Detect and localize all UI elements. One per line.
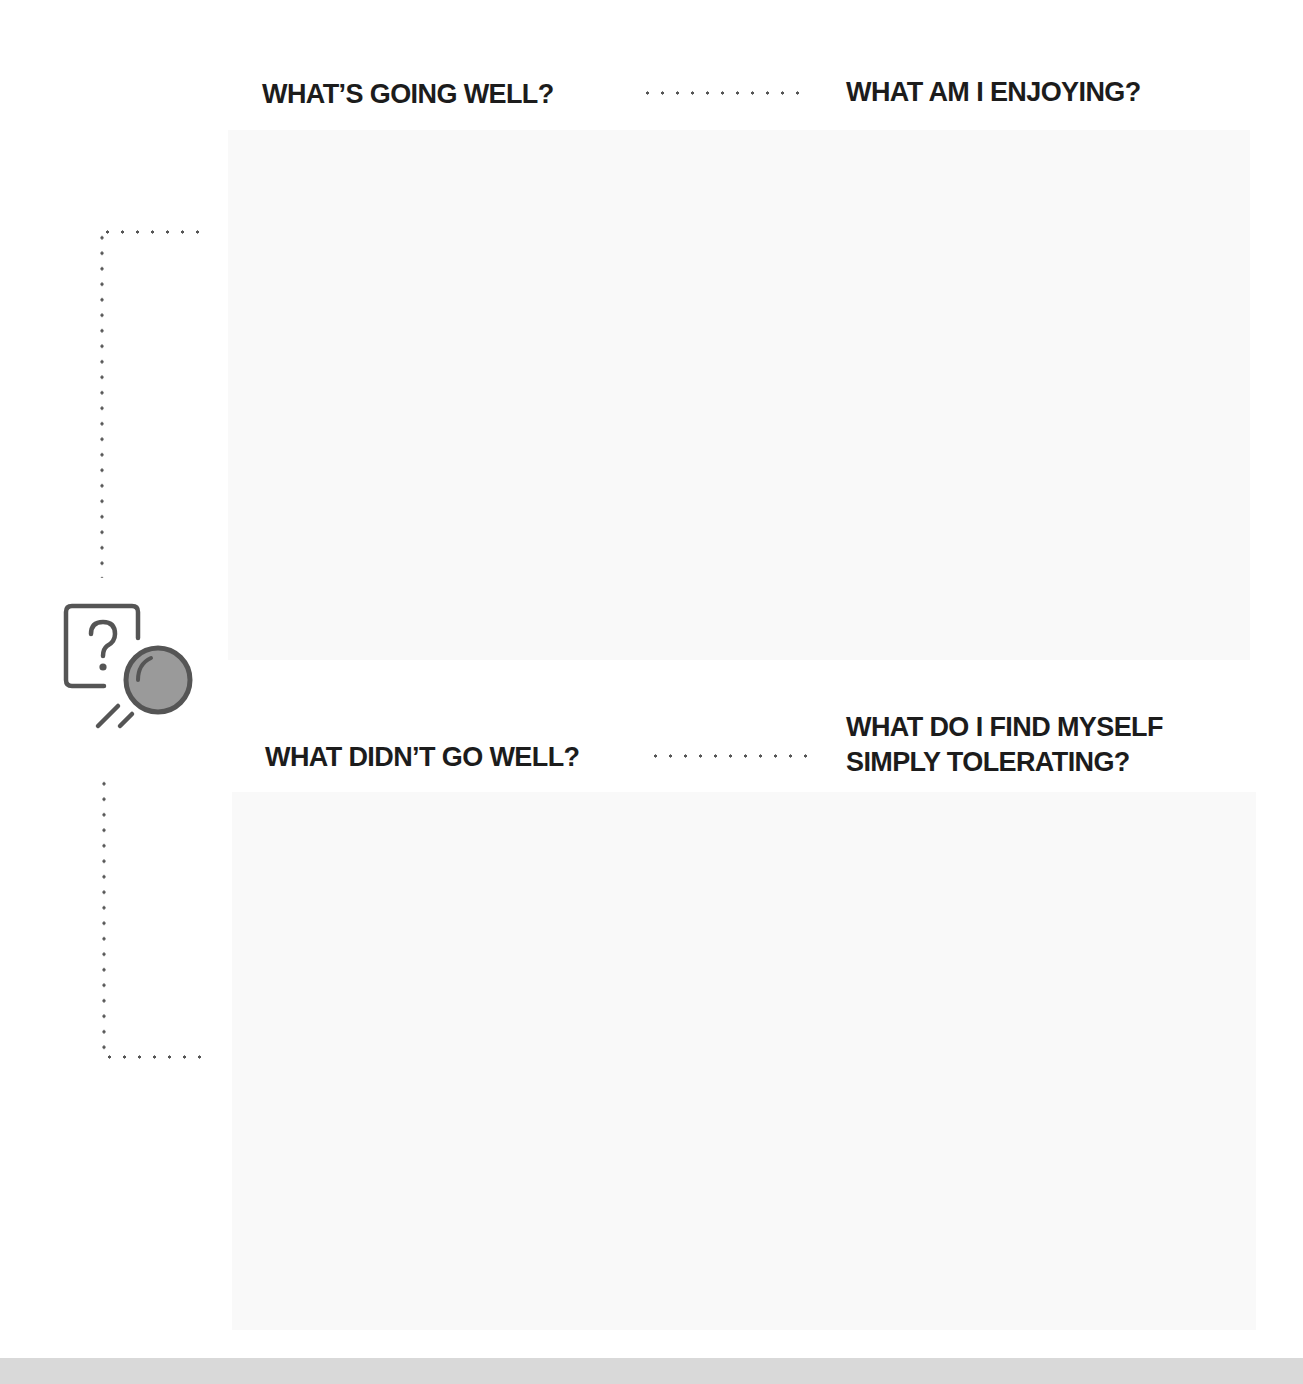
bracket-top-vertical-dots: [100, 230, 104, 578]
dotted-connector-bottom: [648, 754, 812, 758]
bracket-bottom-horizontal-dots: [102, 1055, 204, 1059]
heading-simply-tolerating-line2: SIMPLY TOLERATING?: [846, 745, 1130, 779]
question-card-magnifier-icon: [58, 598, 198, 738]
answer-box-didnt-go-well[interactable]: [232, 792, 1256, 1330]
footer-band: [0, 1358, 1303, 1384]
dotted-connector-top: [640, 91, 800, 95]
heading-what-am-i-enjoying: WHAT AM I ENJOYING?: [846, 75, 1141, 109]
heading-whats-going-well: WHAT’S GOING WELL?: [262, 77, 554, 111]
heading-what-do-i-find-myself-line1: WHAT DO I FIND MYSELF: [846, 710, 1163, 744]
bracket-bottom-vertical-dots: [102, 776, 106, 1058]
answer-box-going-well[interactable]: [228, 130, 1250, 660]
bracket-top-horizontal-dots: [100, 230, 202, 234]
heading-what-didnt-go-well: WHAT DIDN’T GO WELL?: [265, 740, 579, 774]
